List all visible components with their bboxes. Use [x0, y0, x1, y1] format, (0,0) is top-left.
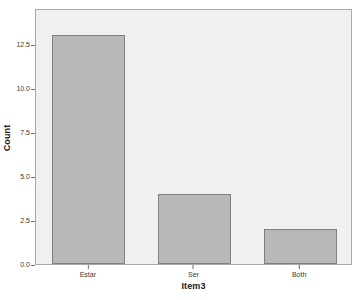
x-tick-mark — [299, 265, 300, 269]
x-axis-ticks: EstarSerBoth — [0, 0, 363, 300]
x-axis-title: Item3 — [35, 281, 352, 291]
x-tick-label: Estar — [80, 270, 96, 279]
bar-chart: 0.02.55.07.510.012.5 Count EstarSerBoth … — [0, 0, 363, 300]
x-tick-label: Ser — [188, 270, 199, 279]
x-tick: Ser — [188, 265, 199, 279]
x-tick-mark — [87, 265, 88, 269]
x-tick-label: Both — [292, 270, 306, 279]
x-tick: Estar — [80, 265, 96, 279]
x-tick-mark — [193, 265, 194, 269]
x-tick: Both — [292, 265, 306, 279]
